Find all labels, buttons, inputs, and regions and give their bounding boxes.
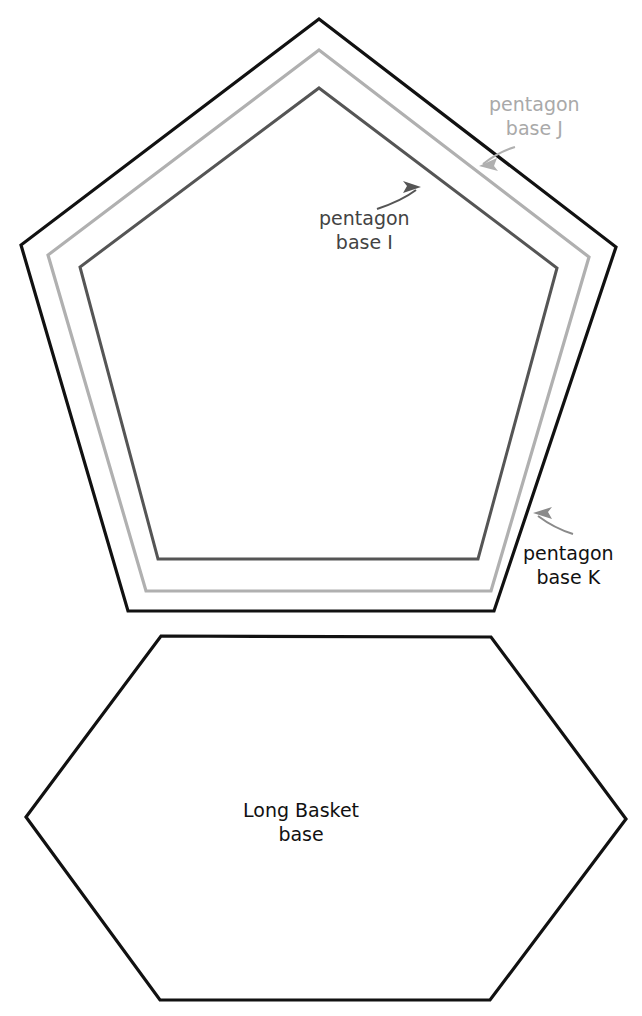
label-long-basket-line2: base: [243, 822, 359, 846]
label-pentagon-i-line1: pentagon: [319, 206, 410, 230]
label-pentagon-base-j: pentagon base J: [489, 92, 580, 141]
label-pentagon-base-k: pentagon base K: [523, 541, 614, 590]
label-pentagon-i-line2: base I: [319, 230, 410, 254]
arrow-to-pentagon-i: [377, 181, 421, 209]
label-pentagon-j-line2: base J: [489, 116, 580, 140]
label-long-basket-base: Long Basket base: [243, 798, 359, 847]
arrow-i-head: [403, 181, 421, 193]
label-pentagon-k-line2: base K: [523, 565, 614, 589]
diagram-canvas: pentagon base J pentagon base I pentagon…: [0, 0, 642, 1016]
figure-svg: [0, 0, 642, 1016]
arrow-to-pentagon-j: [479, 147, 515, 171]
inner-pentagon-shape: [80, 88, 557, 559]
arrow-to-pentagon-k: [533, 507, 573, 534]
label-pentagon-j-line1: pentagon: [489, 92, 580, 116]
label-long-basket-line1: Long Basket: [243, 798, 359, 822]
arrow-k-shaft: [538, 516, 573, 534]
arrow-k-head: [533, 507, 552, 519]
label-pentagon-k-line1: pentagon: [523, 541, 614, 565]
label-pentagon-base-i: pentagon base I: [319, 206, 410, 255]
